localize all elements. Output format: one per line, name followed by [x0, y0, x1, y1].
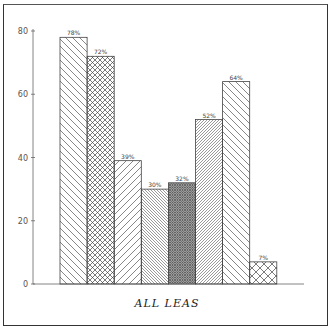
bar-value-label: 39% [121, 153, 135, 160]
bar-value-label: 7% [258, 254, 268, 261]
bar [168, 183, 195, 284]
bar-value-label: 30% [148, 181, 162, 188]
x-axis-label: ALL LEAS [0, 297, 334, 310]
bars: 78%72%39%30%32%52%64%7% [60, 29, 277, 284]
bar [87, 56, 114, 284]
bar-value-label: 32% [175, 175, 189, 182]
bar [114, 161, 141, 284]
y-tick-label: 20 [18, 217, 28, 226]
y-tick-label: 60 [18, 90, 28, 99]
bar-value-label: 64% [229, 74, 243, 81]
bar [196, 120, 223, 284]
bar-value-label: 52% [202, 112, 216, 119]
bar [250, 262, 277, 284]
bar [60, 37, 87, 284]
y-tick-label: 0 [23, 280, 28, 289]
y-tick-label: 40 [18, 154, 28, 163]
bar-value-label: 72% [94, 48, 108, 55]
bar [223, 82, 250, 284]
bar-value-label: 78% [67, 29, 81, 36]
bar [141, 189, 168, 284]
bar-chart: 020406080 78%72%39%30%32%52%64%7% [0, 0, 334, 334]
y-tick-label: 80 [18, 27, 28, 36]
